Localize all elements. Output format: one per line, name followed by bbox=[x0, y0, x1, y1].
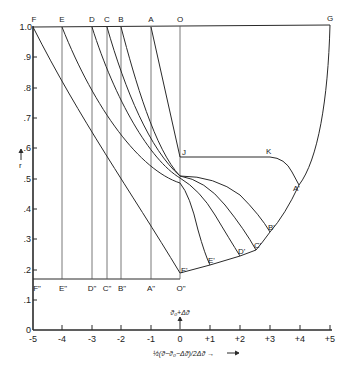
svg-text:.5: .5 bbox=[23, 174, 31, 184]
svg-text:A: A bbox=[148, 15, 154, 24]
svg-text:+5: +5 bbox=[325, 334, 335, 344]
svg-text:-5: -5 bbox=[29, 334, 37, 344]
svg-text:D': D' bbox=[238, 247, 246, 256]
curve-a-j-k bbox=[151, 27, 299, 185]
y-tick-labels: 0 .1 .2 .3 .4 .5 .6 .7 .8 .9 1.0 bbox=[19, 22, 32, 335]
svg-text:-1: -1 bbox=[147, 334, 155, 344]
svg-text:-2: -2 bbox=[117, 334, 125, 344]
point-j-label: J bbox=[182, 148, 186, 157]
svg-text:C': C' bbox=[254, 241, 262, 250]
boundary-curve bbox=[180, 25, 330, 273]
x-axis-label: ½(ϑ−ϑ₀−Δϑ)/2Δϑ → bbox=[153, 350, 214, 358]
x-tick-labels: -5 -4 -3 -2 -1 0 +1 +2 +3 +4 +5 bbox=[29, 334, 335, 344]
x-ticks bbox=[62, 325, 330, 330]
svg-text:.4: .4 bbox=[23, 204, 31, 214]
svg-text:F": F" bbox=[33, 284, 41, 293]
base-labels: F" E" D" C" B" A" O" bbox=[33, 284, 186, 293]
svg-text:.8: .8 bbox=[23, 83, 31, 93]
svg-text:.1: .1 bbox=[23, 295, 31, 305]
svg-text:F': F' bbox=[181, 266, 188, 275]
svg-text:F: F bbox=[32, 15, 37, 24]
curve-d bbox=[92, 27, 240, 256]
vertical-lines bbox=[62, 26, 180, 279]
svg-text:C": C" bbox=[103, 284, 112, 293]
svg-text:+2: +2 bbox=[235, 334, 245, 344]
svg-text:.9: .9 bbox=[23, 52, 31, 62]
y-axis-label: r bbox=[19, 161, 22, 170]
svg-text:D: D bbox=[89, 15, 95, 24]
svg-text:1.0: 1.0 bbox=[19, 22, 32, 32]
svg-text:O: O bbox=[177, 15, 183, 24]
curve-b bbox=[121, 27, 270, 232]
svg-text:B: B bbox=[118, 15, 123, 24]
svg-text:G: G bbox=[327, 14, 333, 23]
svg-text:B": B" bbox=[118, 284, 126, 293]
svg-text:C: C bbox=[104, 15, 110, 24]
svg-text:E': E' bbox=[208, 256, 215, 265]
svg-text:+1: +1 bbox=[205, 334, 215, 344]
svg-text:A': A' bbox=[293, 184, 300, 193]
svg-text:D": D" bbox=[88, 284, 97, 293]
diagram-figure: 0 .1 .2 .3 .4 .5 .6 .7 .8 .9 1.0 r -5 -4… bbox=[0, 0, 351, 370]
svg-text:-4: -4 bbox=[58, 334, 66, 344]
svg-text:E": E" bbox=[59, 284, 67, 293]
top-labels: F E D C B A O G bbox=[32, 14, 334, 24]
svg-text:+4: +4 bbox=[295, 334, 305, 344]
svg-text:B': B' bbox=[268, 223, 275, 232]
svg-text:0: 0 bbox=[177, 334, 182, 344]
svg-text:A": A" bbox=[147, 284, 155, 293]
curve-end-labels: F' E' D' C' B' A' bbox=[181, 184, 300, 275]
svg-text:E: E bbox=[59, 15, 64, 24]
top-line bbox=[33, 25, 330, 27]
svg-text:-3: -3 bbox=[88, 334, 96, 344]
curve-c bbox=[107, 27, 256, 250]
svg-text:O": O" bbox=[176, 284, 185, 293]
svg-text:.3: .3 bbox=[23, 234, 31, 244]
svg-text:.7: .7 bbox=[23, 113, 31, 123]
svg-text:+3: +3 bbox=[265, 334, 275, 344]
diagram-svg: 0 .1 .2 .3 .4 .5 .6 .7 .8 .9 1.0 r -5 -4… bbox=[0, 0, 351, 370]
point-k-label: K bbox=[266, 147, 272, 156]
svg-text:.2: .2 bbox=[23, 265, 31, 275]
zero-annotation: ϑ₀+Δϑ bbox=[170, 309, 191, 316]
curve-e bbox=[62, 27, 210, 265]
svg-text:.6: .6 bbox=[23, 143, 31, 153]
